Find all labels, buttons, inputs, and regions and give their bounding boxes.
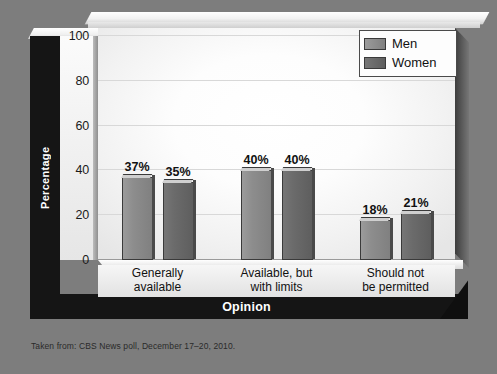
bar-value-label: 37% bbox=[124, 160, 149, 174]
category-label-2: Available, butwith limits bbox=[217, 265, 336, 297]
bar-top-face bbox=[162, 179, 193, 183]
bar-side-face bbox=[390, 218, 393, 259]
category-label-line: Should not bbox=[336, 266, 455, 280]
bar-top-face bbox=[240, 167, 271, 171]
y-tick-label-80: 80 bbox=[75, 74, 89, 88]
category-label-1: Generallyavailable bbox=[98, 265, 217, 297]
bar-value-label: 40% bbox=[284, 153, 309, 167]
category-label-line: available bbox=[98, 280, 217, 294]
legend-swatch-men bbox=[364, 38, 386, 50]
legend-item-men[interactable]: Men bbox=[364, 34, 452, 53]
bar-side-face bbox=[431, 211, 434, 259]
legend-label-women: Women bbox=[392, 56, 437, 69]
source-caption: Taken from: CBS News poll, December 17–2… bbox=[31, 341, 235, 351]
bar-top-face bbox=[121, 174, 152, 178]
y-tick-label-60: 60 bbox=[75, 119, 89, 133]
category-label-line: with limits bbox=[217, 280, 336, 294]
category-label-line: Available, but bbox=[217, 266, 336, 280]
chart-right-shadow bbox=[455, 28, 469, 268]
legend-swatch-women bbox=[364, 57, 386, 69]
bar-women-2: 40% bbox=[282, 170, 313, 260]
bar-value-label: 35% bbox=[165, 165, 190, 179]
bar-top-face bbox=[359, 217, 390, 221]
bar-men-2: 40% bbox=[241, 170, 272, 260]
bar-side-face bbox=[193, 180, 196, 259]
y-tick-label-40: 40 bbox=[75, 163, 89, 177]
bar-top-face bbox=[281, 167, 312, 171]
bar-women-3: 21% bbox=[401, 213, 432, 260]
chart-legend: MenWomen bbox=[359, 30, 457, 77]
gridline-60 bbox=[98, 125, 455, 126]
category-label-3: Should notbe permitted bbox=[336, 265, 455, 297]
legend-item-women[interactable]: Women bbox=[364, 53, 452, 72]
y-tick-label-0: 0 bbox=[82, 253, 89, 267]
gridline-40 bbox=[98, 169, 455, 170]
x-axis-title: Opinion bbox=[30, 294, 463, 319]
bar-chart-figure: Percentage Opinion 020406080100 37%35%40… bbox=[0, 0, 497, 374]
category-label-line: Generally bbox=[98, 266, 217, 280]
x-axis-category-labels: GenerallyavailableAvailable, butwith lim… bbox=[98, 265, 455, 297]
legend-label-men: Men bbox=[392, 37, 417, 50]
bar-top-face bbox=[400, 210, 431, 214]
bar-value-label: 21% bbox=[403, 196, 428, 210]
bar-men-3: 18% bbox=[360, 220, 391, 260]
category-label-line: be permitted bbox=[336, 280, 455, 294]
bar-value-label: 40% bbox=[243, 153, 268, 167]
bar-side-face bbox=[271, 168, 274, 259]
bar-value-label: 18% bbox=[362, 203, 387, 217]
bar-women-1: 35% bbox=[163, 182, 194, 260]
y-tick-label-20: 20 bbox=[75, 208, 89, 222]
bar-side-face bbox=[312, 168, 315, 259]
bar-men-1: 37% bbox=[122, 177, 153, 260]
y-axis-title: Percentage bbox=[30, 36, 60, 319]
y-tick-label-100: 100 bbox=[69, 29, 89, 43]
gridline-80 bbox=[98, 80, 455, 81]
bar-side-face bbox=[152, 175, 155, 259]
